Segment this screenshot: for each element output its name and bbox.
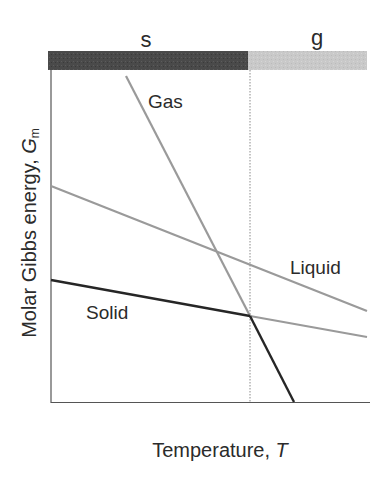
y-axis-symbol: G [18, 138, 40, 154]
phase-label-gas: g [311, 25, 323, 51]
y-axis-label: Molar Gibbs energy, Gm [18, 128, 42, 338]
gibbs-energy-plot [0, 0, 388, 479]
liquid-curve [51, 186, 367, 311]
gas-label: Gas [148, 91, 183, 113]
x-axis-symbol: T [276, 439, 288, 461]
solid-curve-metastable [250, 316, 367, 337]
x-axis-label: Temperature, T [152, 439, 288, 462]
gas-curve-stable [250, 316, 294, 402]
phase-label-solid: s [141, 27, 152, 53]
x-axis-label-text: Temperature, [152, 439, 275, 461]
solid-label: Solid [86, 302, 128, 324]
gas-curve [126, 76, 250, 316]
phase-bar-solid [48, 51, 248, 70]
y-axis-subscript: m [28, 128, 42, 138]
liquid-label: Liquid [290, 257, 341, 279]
phase-bar-gas [248, 51, 367, 70]
y-axis-label-text: Molar Gibbs energy, [18, 154, 40, 338]
solid-curve [51, 280, 250, 316]
